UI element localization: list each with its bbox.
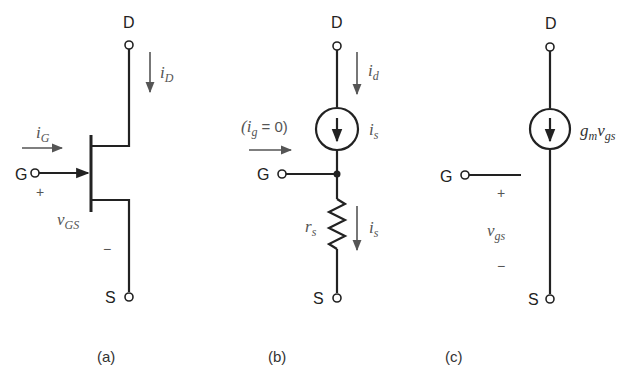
drain-terminal-b xyxy=(333,42,341,50)
resistor-label-b: rs xyxy=(305,217,317,239)
drain-label-c: D xyxy=(545,15,557,32)
drain-current-label-a: iD xyxy=(160,63,174,85)
gate-terminal-a xyxy=(31,169,39,177)
source-terminal-c xyxy=(546,295,554,303)
drain-terminal-c xyxy=(546,43,554,51)
gate-terminal-b xyxy=(278,170,286,178)
resistor-rs-b xyxy=(329,199,345,249)
source-label-b: S xyxy=(313,290,324,307)
caption-c: (c) xyxy=(445,348,463,365)
circuit-figure: D S G iD iG + vGS − (a) D S G xyxy=(0,0,634,385)
gate-current-label-a: iG xyxy=(36,123,50,145)
drain-label-b: D xyxy=(331,14,343,31)
panel-a-jfet-symbol: D S G iD iG + vGS − (a) xyxy=(15,14,174,365)
source-label-a: S xyxy=(105,289,116,306)
gate-terminal-c xyxy=(461,171,469,179)
caption-a: (a) xyxy=(97,348,115,365)
gate-label-a: G xyxy=(15,166,27,183)
vgs-plus-a: + xyxy=(36,184,44,200)
drain-label-a: D xyxy=(123,14,135,31)
dependent-source-label-c: gmvgs xyxy=(580,121,616,143)
source-terminal-a xyxy=(125,293,133,301)
vgs-label-c: vgs xyxy=(487,221,506,243)
source-label-c: S xyxy=(528,291,539,308)
drain-current-label-b: id xyxy=(368,61,380,83)
source-terminal-b xyxy=(333,294,341,302)
panel-b-small-signal-model: D S G id is (ig = 0) rs is (b) xyxy=(241,14,380,365)
vgs-plus-c: + xyxy=(497,185,505,201)
vgs-label-a: vGS xyxy=(57,210,79,232)
panel-c-transconductance-model: D S gmvgs G + vgs − (c) xyxy=(440,15,616,365)
gate-current-note-b: (ig = 0) xyxy=(241,117,288,139)
gate-label-c: G xyxy=(440,168,452,185)
drain-wire-a xyxy=(92,49,129,146)
vgs-minus-c: − xyxy=(497,258,505,274)
source-current-label-b: is xyxy=(369,120,379,142)
vgs-minus-a: − xyxy=(103,241,111,257)
caption-b: (b) xyxy=(268,348,286,365)
drain-terminal-a xyxy=(125,41,133,49)
resistor-current-label-b: is xyxy=(369,218,379,240)
gate-label-b: G xyxy=(257,166,269,183)
